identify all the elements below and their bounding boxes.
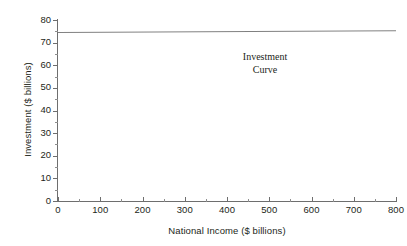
x-axis-title: National Income ($ billions)	[58, 225, 396, 236]
y-axis-tick	[53, 20, 58, 21]
y-axis-minor-tick	[55, 144, 58, 145]
y-axis-tick-label: 20	[11, 149, 51, 160]
annotation-line-2: Curve	[215, 63, 315, 76]
y-axis-tick	[53, 111, 58, 112]
y-axis-tick-label: 10	[11, 172, 51, 183]
y-axis-tick	[53, 88, 58, 89]
x-axis-tick-label: 400	[207, 204, 247, 215]
x-axis-tick-label: 0	[38, 204, 78, 215]
x-axis-tick	[269, 197, 270, 202]
x-axis-tick	[100, 197, 101, 202]
investment-curve-label: InvestmentCurve	[215, 50, 315, 76]
x-axis-minor-tick	[79, 199, 80, 202]
x-axis-tick	[227, 197, 228, 202]
y-axis-tick-label: 50	[11, 81, 51, 92]
x-axis-tick-label: 700	[334, 204, 374, 215]
annotation-line-1: Investment	[215, 50, 315, 63]
x-axis-tick-label: 200	[123, 204, 163, 215]
y-axis-minor-tick	[55, 99, 58, 100]
x-axis-minor-tick	[375, 199, 376, 202]
x-axis-tick-label: 300	[165, 204, 205, 215]
y-axis-tick-label: 80	[11, 14, 51, 25]
x-axis-tick	[396, 197, 397, 202]
y-axis-tick	[53, 156, 58, 157]
y-axis-tick	[53, 65, 58, 66]
x-axis-minor-tick	[121, 199, 122, 202]
x-axis-tick-label: 500	[249, 204, 289, 215]
y-axis-tick	[53, 133, 58, 134]
x-axis-tick	[58, 197, 59, 202]
y-axis-minor-tick	[55, 54, 58, 55]
x-axis-tick	[312, 197, 313, 202]
x-axis-minor-tick	[290, 199, 291, 202]
x-axis-minor-tick	[248, 199, 249, 202]
x-axis-tick-label: 100	[80, 204, 120, 215]
x-axis-tick-label: 800	[376, 204, 407, 215]
y-axis-tick	[53, 43, 58, 44]
x-axis-tick	[185, 197, 186, 202]
y-axis-minor-tick	[55, 77, 58, 78]
x-axis-minor-tick	[333, 199, 334, 202]
x-axis-tick	[143, 197, 144, 202]
x-axis-minor-tick	[164, 199, 165, 202]
x-axis-minor-tick	[206, 199, 207, 202]
y-axis-minor-tick	[55, 167, 58, 168]
y-axis-minor-tick	[55, 190, 58, 191]
x-axis-tick	[354, 197, 355, 202]
investment-curve-chart: Investment ($ billions) 0102030405060708…	[0, 0, 407, 246]
y-axis-tick-label: 40	[11, 104, 51, 115]
y-axis-minor-tick	[55, 122, 58, 123]
y-axis-tick-label: 30	[11, 127, 51, 138]
x-axis-tick-label: 600	[292, 204, 332, 215]
y-axis-tick-label: 60	[11, 59, 51, 70]
y-axis-tick	[53, 178, 58, 179]
y-axis-tick-label: 70	[11, 36, 51, 47]
investment-curve-line	[58, 31, 396, 34]
